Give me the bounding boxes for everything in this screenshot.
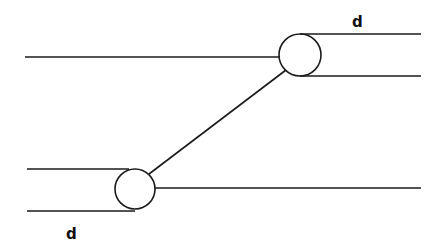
diagonal-connector — [149, 70, 286, 174]
offset-diagram: d d — [0, 0, 442, 250]
label-d-top: d — [352, 13, 363, 31]
lower-circle — [115, 169, 155, 209]
label-d-bottom: d — [66, 225, 77, 243]
